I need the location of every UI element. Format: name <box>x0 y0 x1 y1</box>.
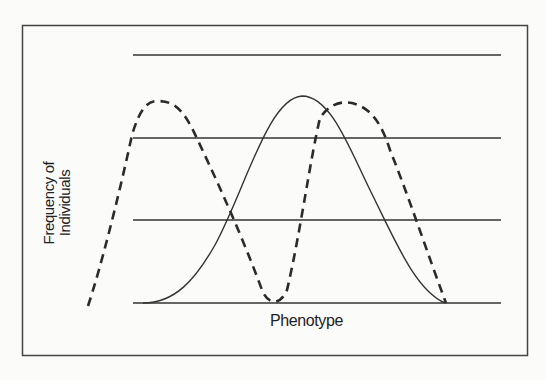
x-axis-label: Phenotype <box>270 312 343 330</box>
horizontal-guide-lines <box>133 55 501 303</box>
figure-border <box>23 26 528 356</box>
y-axis-label: Frequency of Individuals <box>27 147 87 259</box>
solid-unimodal-curve <box>143 96 445 303</box>
y-axis-label-line2: Individuals <box>57 162 73 245</box>
y-axis-label-line1: Frequency of <box>41 162 57 245</box>
